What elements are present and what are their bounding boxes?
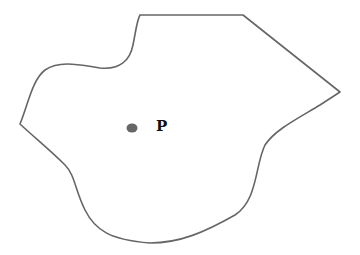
point-p-marker <box>127 124 138 133</box>
region-outline <box>20 15 340 243</box>
point-p-label: P <box>156 117 167 135</box>
diagram-canvas <box>0 0 360 255</box>
